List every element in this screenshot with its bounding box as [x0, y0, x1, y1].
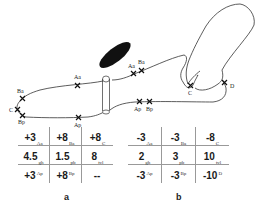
- cell-b-D: -10D: [196, 165, 230, 184]
- table-b: -3Aa -3Ba -8C 2gh 3pb 10tvl -3Ap -3Bp -1…: [128, 127, 229, 183]
- cell-a-Aa: +3Aa: [18, 127, 50, 146]
- label-left-Aa: Aa: [74, 74, 81, 80]
- ring-bottom: [103, 110, 110, 114]
- label-left-Ba: Ba: [17, 88, 24, 94]
- cell-b-tvl: 10tvl: [196, 146, 230, 165]
- label-left-Bp: Bp: [18, 119, 25, 125]
- cylinder-body: [103, 79, 110, 111]
- table-a-row-middle: 4.5gh 1.5pb 8tvl: [18, 146, 113, 165]
- table-a-row-anterior: +3Aa +8Ba +8C: [18, 127, 113, 146]
- left-upper-tract: [17, 81, 103, 111]
- cell-a-tvl: 8tvl: [82, 146, 114, 165]
- table-b-row-anterior: -3Aa -3Ba -8C: [128, 127, 229, 146]
- ring-top: [103, 76, 110, 82]
- cell-a-empty: --: [82, 165, 114, 184]
- label-right-C: C: [188, 90, 192, 96]
- panel-label-a: a: [64, 192, 69, 202]
- label-right-Bp: Bp: [146, 106, 153, 112]
- cell-b-Ap: -3Ap: [128, 165, 162, 184]
- marker-left-Aa: [75, 83, 80, 88]
- right-upper-tract: [112, 55, 187, 82]
- label-right-Ap: Ap: [134, 106, 141, 112]
- cell-b-gh: 2gh: [128, 146, 162, 165]
- cell-b-pb: 3pb: [162, 146, 196, 165]
- label-left-C: C: [9, 107, 13, 113]
- right-loop: [183, 4, 254, 90]
- table-b-row-middle: 2gh 3pb 10tvl: [128, 146, 229, 165]
- cell-b-Ba: -3Ba: [162, 127, 196, 146]
- table-b-row-posterior: -3Ap -3Bp -10D: [128, 165, 229, 184]
- table-a-row-posterior: +3Ap +8Bp --: [18, 165, 113, 184]
- right-lower-tract: [110, 80, 226, 110]
- marker-left-Ba: [20, 96, 25, 101]
- marker-left-C: [15, 107, 20, 112]
- cell-a-Ap: +3Ap: [18, 165, 50, 184]
- label-right-Aa: Aa: [128, 63, 135, 69]
- cell-b-Bp: -3Bp: [162, 165, 196, 184]
- cell-b-Aa: -3Aa: [128, 127, 162, 146]
- site-markers: [15, 68, 227, 120]
- cell-b-C: -8C: [196, 127, 230, 146]
- panel-label-b: b: [176, 192, 182, 202]
- left-lower-tract: [18, 111, 104, 118]
- cell-a-pb: 1.5pb: [50, 146, 82, 165]
- cell-a-Bp: +8Bp: [50, 165, 82, 184]
- label-right-D: D: [230, 83, 235, 89]
- label-right-Ba: Ba: [138, 59, 145, 65]
- table-a: +3Aa +8Ba +8C 4.5gh 1.5pb 8tvl +3Ap +8Bp…: [18, 127, 113, 183]
- cell-a-gh: 4.5gh: [18, 146, 50, 165]
- marker-left-Bp: [20, 113, 25, 118]
- cell-a-C: +8C: [82, 127, 114, 146]
- cell-a-Ba: +8Ba: [50, 127, 82, 146]
